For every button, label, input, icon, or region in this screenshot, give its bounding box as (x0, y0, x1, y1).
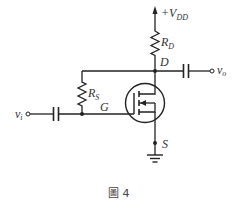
drain-label: D (159, 55, 169, 69)
figure-caption: 圖 4 (108, 187, 130, 200)
feedback-resistor-label: RS (87, 86, 99, 102)
source-label: S (162, 137, 168, 151)
output-capacitor-icon (184, 64, 211, 78)
vdd-supply-arrow-icon (153, 6, 158, 28)
output-terminal (210, 69, 214, 73)
feedback-resistor-icon (78, 71, 86, 114)
ground-icon (147, 155, 163, 162)
output-label: vo (217, 63, 226, 78)
gate-node-dot (80, 112, 84, 116)
input-label: vi (15, 107, 23, 122)
drain-resistor-label: RD (160, 35, 174, 51)
input-capacitor-icon (54, 107, 59, 121)
gate-label: G (100, 100, 109, 114)
input-terminal (26, 112, 30, 116)
source-node-dot (153, 141, 157, 145)
vdd-label: +VDD (161, 6, 188, 22)
circuit-diagram: +VDD RD D vo RS vi G (0, 0, 238, 205)
drain-resistor-icon (151, 28, 159, 71)
nmos-transistor-icon (126, 71, 165, 155)
